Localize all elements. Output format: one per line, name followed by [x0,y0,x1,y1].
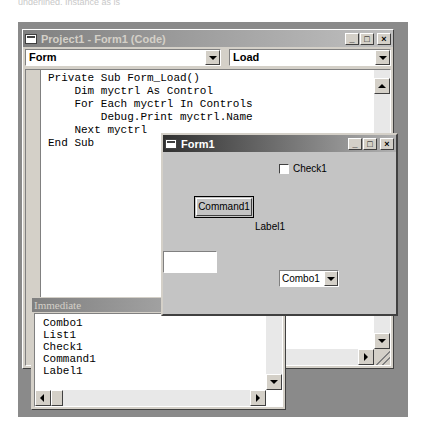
command1-button[interactable]: Command1 [194,196,254,218]
code-window-title: Project1 - Form1 (Code) [41,33,344,45]
command1-label: Command1 [196,198,252,216]
form1-window: Form1 _ □ × Check1 Command1 Label1 Combo… [161,133,398,316]
chevron-down-icon[interactable] [375,50,390,65]
immediate-output[interactable]: Combo1 List1 Check1 Command1 Label1 [34,313,283,407]
checkbox-icon[interactable] [279,164,289,174]
code-window-icon [25,34,37,44]
combo1-dropdown[interactable]: Combo1 [279,270,339,287]
scroll-up-arrow-icon[interactable] [374,78,390,94]
close-button[interactable]: × [380,138,394,150]
text1-input[interactable] [163,251,217,273]
chevron-down-icon[interactable] [205,50,220,65]
immediate-vertical-scrollbar[interactable] [266,314,282,390]
form-icon [165,139,177,149]
object-combo-value: Form [29,51,57,63]
minimize-button[interactable]: _ [348,138,362,150]
scroll-right-arrow-icon[interactable] [358,349,374,365]
object-combo[interactable]: Form [25,49,221,66]
scroll-thumb[interactable] [51,390,63,406]
close-button[interactable]: × [377,33,391,45]
check1-label: Check1 [293,163,327,174]
combo1-value: Combo1 [282,273,320,284]
cropped-caption-text: underlined. Instance as is [18,0,258,5]
form1-body: Check1 Command1 Label1 Combo1 [163,152,396,314]
maximize-button[interactable]: □ [363,138,377,150]
procedure-combo[interactable]: Load [229,49,391,66]
immediate-horizontal-scrollbar[interactable] [35,390,266,406]
form1-titlebar[interactable]: Form1 _ □ × [163,135,396,152]
immediate-text: Combo1 List1 Check1 Command1 Label1 [43,317,96,377]
resize-grip-icon[interactable] [374,349,390,365]
scroll-down-arrow-icon[interactable] [266,374,282,390]
scroll-down-arrow-icon[interactable] [374,333,390,349]
minimize-button[interactable]: _ [345,33,359,45]
scroll-left-arrow-icon[interactable] [35,390,51,406]
maximize-button[interactable]: □ [360,33,374,45]
scroll-right-arrow-icon[interactable] [250,390,266,406]
form1-title: Form1 [181,138,347,150]
procedure-combo-value: Load [233,51,259,63]
check1-checkbox[interactable]: Check1 [279,163,327,174]
chevron-down-icon[interactable] [324,271,338,286]
label1: Label1 [255,221,285,232]
code-window-titlebar[interactable]: Project1 - Form1 (Code) _ □ × [23,30,393,47]
